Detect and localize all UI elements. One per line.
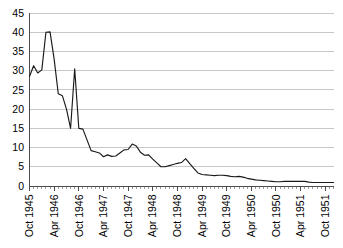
x-axis-tick-label: Apr 1947 [97,194,109,237]
x-axis-tick-label: Apr 1951 [294,194,306,237]
x-axis-tick-label: Oct 1947 [122,194,134,237]
y-axis-tick-label: 30 [12,64,24,76]
x-axis-tick-label: Apr 1948 [146,194,158,237]
x-axis-tick-label: Oct 1950 [270,194,282,237]
y-axis-tick-label: 45 [12,7,24,19]
y-axis-tick-label: 10 [12,141,24,153]
y-axis-tick-label: 25 [12,84,24,96]
y-axis-tick-label: 5 [18,160,24,172]
y-axis-tick-label: 20 [12,103,24,115]
x-axis-tick-label: Oct 1949 [220,194,232,237]
x-axis-tick-label: Oct 1945 [23,194,35,237]
x-axis-tick-label: Oct 1948 [171,194,183,237]
chart-canvas: 051015202530354045 Oct 1945Apr 1946Oct 1… [0,0,343,248]
x-axis-tick-label: Oct 1946 [73,194,85,237]
x-axis-tick-label: Apr 1950 [245,194,257,237]
y-axis-tick-label: 0 [18,180,24,192]
y-axis-tick-label: 35 [12,45,24,57]
y-axis-tick-label: 40 [12,26,24,38]
x-axis-tick-label: Apr 1946 [48,194,60,237]
line-chart: 051015202530354045 Oct 1945Apr 1946Oct 1… [0,0,343,248]
x-axis-tick-label: Apr 1949 [196,194,208,237]
x-axis-tick-label: Oct 1951 [319,194,331,237]
y-axis-tick-label: 15 [12,122,24,134]
